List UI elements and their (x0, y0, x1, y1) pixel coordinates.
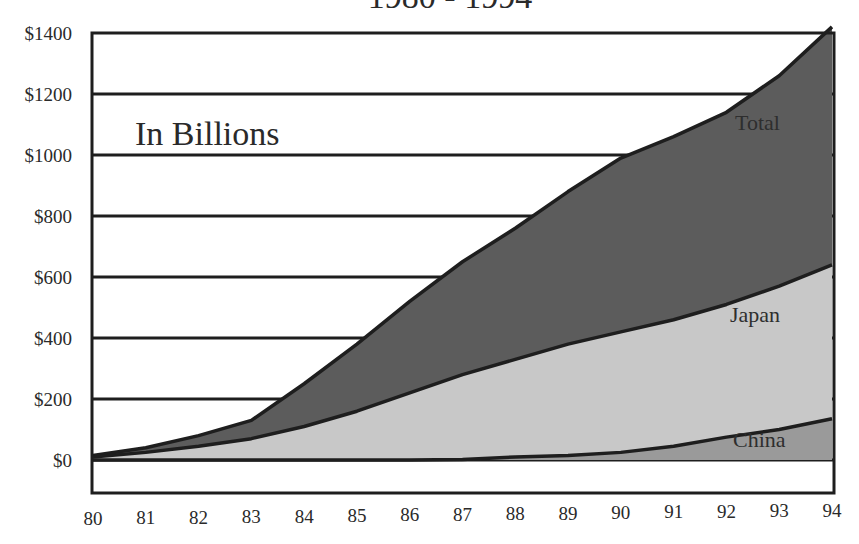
x-tick-label: 85 (347, 505, 366, 526)
x-tick-label: 86 (400, 504, 419, 525)
series-label-china: China (733, 427, 786, 452)
area-chart-canvas: 1980 - 1994 $0$200$400$600$800$1000$1200… (0, 0, 859, 544)
x-tick-label: 92 (717, 501, 736, 522)
chart: 1980 - 1994 $0$200$400$600$800$1000$1200… (0, 0, 859, 544)
y-tick-label: $1400 (25, 23, 73, 44)
x-tick-label: 93 (770, 500, 789, 521)
y-tick-label: $800 (34, 206, 72, 227)
x-tick-label: 87 (453, 504, 472, 525)
area-series (93, 27, 832, 460)
x-tick-label: 81 (136, 507, 155, 528)
series-label-japan: Japan (730, 302, 780, 327)
y-tick-label: $0 (53, 450, 72, 471)
x-tick-label: 91 (664, 501, 683, 522)
x-tick-label: 94 (823, 500, 843, 521)
y-tick-label: $1200 (25, 84, 73, 105)
x-tick-label: 83 (242, 506, 261, 527)
x-tick-label: 90 (611, 502, 630, 523)
x-tick-label: 80 (84, 508, 103, 529)
units-annotation: In Billions (135, 115, 280, 152)
y-tick-label: $400 (34, 328, 72, 349)
y-axis: $0$200$400$600$800$1000$1200$1400 (25, 23, 73, 471)
x-axis: 808182838485868788899091929394 (84, 500, 843, 529)
chart-title: 1980 - 1994 (368, 0, 532, 15)
x-tick-label: 88 (506, 503, 525, 524)
x-tick-label: 84 (295, 506, 315, 527)
y-tick-label: $1000 (25, 145, 73, 166)
x-tick-label: 89 (559, 503, 578, 524)
y-tick-label: $200 (34, 389, 72, 410)
series-label-total: Total (735, 110, 780, 135)
x-tick-label: 82 (189, 507, 208, 528)
y-tick-label: $600 (34, 267, 72, 288)
